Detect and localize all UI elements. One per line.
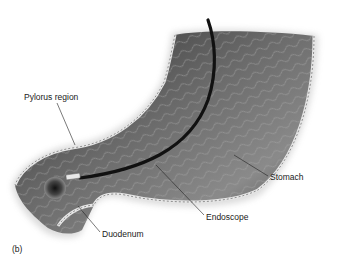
endoscope-label: Endoscope: [206, 213, 249, 222]
panel-label: (b): [12, 245, 22, 254]
pylorus-leader-line: [57, 103, 75, 145]
figure-canvas: Pylorus region Stomach Endoscope Duodenu…: [0, 0, 341, 260]
duodenum-label: Duodenum: [102, 230, 144, 239]
stomach-label: Stomach: [270, 173, 304, 182]
pylorus-region-label: Pylorus region: [24, 93, 78, 102]
stomach-illustration: [0, 0, 341, 260]
pylorus-opening: [44, 177, 66, 199]
